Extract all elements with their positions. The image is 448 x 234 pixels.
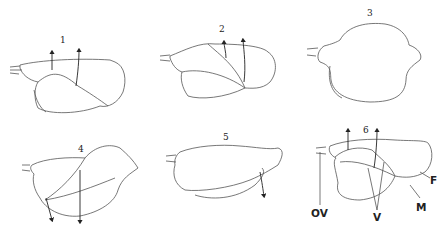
panel-1: 1 bbox=[10, 35, 125, 113]
label-f: F bbox=[430, 174, 437, 186]
arrow-icon bbox=[76, 50, 79, 86]
mantle-outline bbox=[20, 59, 125, 112]
panel-label: 5 bbox=[223, 132, 229, 142]
leader-v bbox=[368, 168, 377, 210]
arrow-icon bbox=[46, 198, 52, 220]
panel-label: 6 bbox=[363, 125, 369, 135]
panel-5: 5 bbox=[166, 132, 282, 198]
panel-2: 2 bbox=[160, 24, 275, 98]
panel-3: 3 bbox=[307, 8, 421, 102]
panel-label: 2 bbox=[219, 24, 225, 34]
label-m: M bbox=[416, 201, 426, 213]
visceral-fold bbox=[38, 74, 108, 106]
leader-v2 bbox=[377, 162, 384, 210]
arrow-icon bbox=[243, 40, 245, 82]
diagram-canvas: 1 2 3 4 5 bbox=[0, 0, 448, 234]
panel-4: 4 bbox=[22, 144, 138, 222]
panel-6: 6 OV V M F bbox=[311, 125, 437, 223]
arrow-icon bbox=[374, 130, 377, 168]
label-ov: OV bbox=[311, 207, 329, 219]
panel-label: 3 bbox=[367, 8, 373, 18]
panel-label: 4 bbox=[78, 144, 84, 154]
label-v: V bbox=[373, 211, 382, 223]
panel-label: 1 bbox=[60, 35, 66, 45]
leader-f bbox=[420, 172, 430, 178]
leader-m bbox=[410, 185, 420, 198]
